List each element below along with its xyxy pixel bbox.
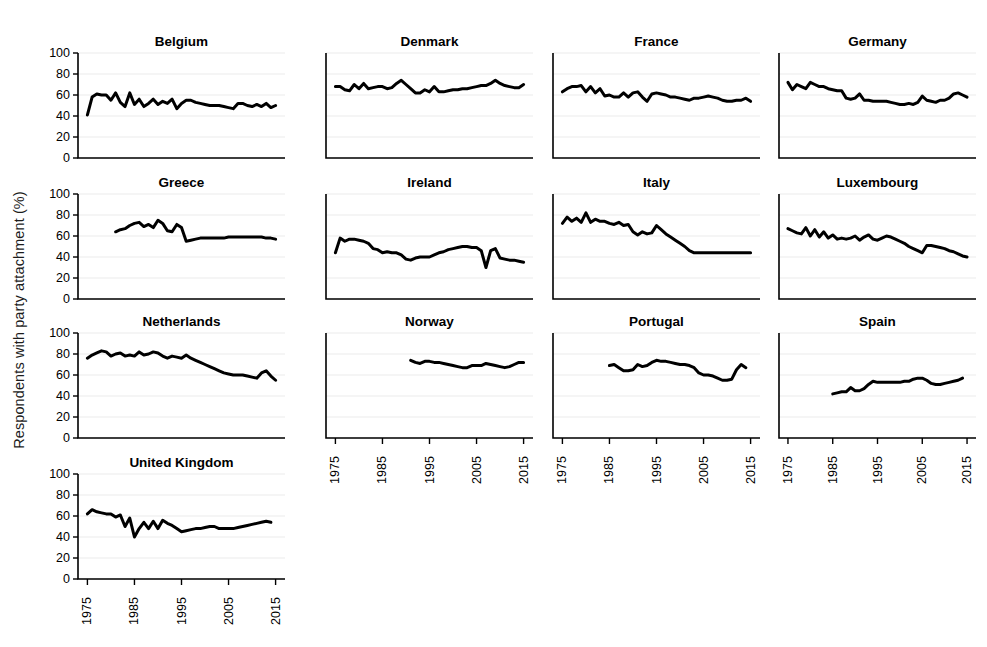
x-tick-label: 2005 — [915, 449, 929, 491]
panel-title: Ireland — [326, 175, 533, 191]
data-line-germany — [788, 82, 967, 104]
panel-title: United Kingdom — [78, 455, 285, 471]
x-tick-label: 1995 — [175, 590, 189, 632]
panel-france: France — [0, 0, 987, 647]
panel-plot — [0, 0, 987, 647]
y-tick-label: 80 — [34, 68, 70, 80]
data-line-belgium — [87, 93, 275, 115]
y-tick-label: 60 — [34, 89, 70, 101]
panel-ireland: Ireland — [0, 0, 987, 647]
y-tick-label: 0 — [34, 152, 70, 164]
x-tick-label: 1985 — [127, 590, 141, 632]
x-tick-label: 1995 — [423, 449, 437, 491]
panel-title: Luxembourg — [779, 175, 976, 191]
y-tick-label: 20 — [34, 411, 70, 423]
data-line-france — [562, 86, 750, 102]
axis-lines — [779, 53, 976, 158]
axis-lines — [553, 194, 760, 299]
y-tick-label: 100 — [34, 327, 70, 339]
axis-lines — [553, 333, 760, 438]
panel-luxembourg: Luxembourg — [0, 0, 987, 647]
y-tick-label: 100 — [34, 188, 70, 200]
y-tick-label: 80 — [34, 209, 70, 221]
y-axis-label: Respondents with party attachment (%) — [2, 140, 36, 500]
x-tick-label: 2015 — [960, 449, 974, 491]
y-tick-label: 60 — [34, 230, 70, 242]
data-line-portugal — [609, 360, 745, 380]
x-tick-label: 2015 — [269, 590, 283, 632]
x-tick-label: 2015 — [517, 449, 531, 491]
x-tick-label: 1985 — [375, 449, 389, 491]
panel-title: Italy — [553, 175, 760, 191]
y-tick-label: 20 — [34, 131, 70, 143]
x-tick-label: 1975 — [328, 449, 342, 491]
panel-title: Belgium — [78, 34, 285, 50]
x-tick-label: 1975 — [555, 449, 569, 491]
x-tick-label: 1995 — [650, 449, 664, 491]
axis-lines — [78, 194, 285, 299]
panel-plot — [0, 0, 987, 647]
panel-plot — [0, 0, 987, 647]
axis-lines — [78, 474, 285, 579]
panel-title: Greece — [78, 175, 285, 191]
panel-denmark: Denmark — [0, 0, 987, 647]
panel-netherlands: Netherlands020406080100 — [0, 0, 987, 647]
y-tick-label: 100 — [34, 468, 70, 480]
y-tick-label: 20 — [34, 552, 70, 564]
axis-lines — [326, 194, 533, 299]
panel-title: France — [553, 34, 760, 50]
x-tick-label: 2015 — [744, 449, 758, 491]
axis-lines — [326, 333, 533, 438]
panel-greece: Greece020406080100 — [0, 0, 987, 647]
axis-lines — [779, 194, 976, 299]
panel-title: Spain — [779, 314, 976, 330]
panel-belgium: Belgium020406080100 — [0, 0, 987, 647]
x-tick-label: 2005 — [470, 449, 484, 491]
y-tick-label: 40 — [34, 110, 70, 122]
x-tick-label: 1975 — [781, 449, 795, 491]
data-line-italy — [562, 213, 750, 253]
y-tick-label: 0 — [34, 293, 70, 305]
y-tick-label: 80 — [34, 489, 70, 501]
panel-plot — [0, 0, 987, 647]
panel-plot — [0, 0, 987, 647]
panel-plot — [0, 0, 987, 647]
y-tick-label: 0 — [34, 432, 70, 444]
y-tick-label: 60 — [34, 510, 70, 522]
x-tick-label: 2005 — [222, 590, 236, 632]
y-tick-label: 40 — [34, 390, 70, 402]
y-tick-label: 80 — [34, 348, 70, 360]
panel-germany: Germany — [0, 0, 987, 647]
data-line-ireland — [335, 238, 523, 267]
panel-united-kingdom: United Kingdom02040608010019751985199520… — [0, 0, 987, 647]
axis-lines — [78, 53, 285, 158]
panel-title: Norway — [326, 314, 533, 330]
axis-lines — [779, 333, 976, 438]
small-multiples-chart: Respondents with party attachment (%) Be… — [0, 0, 987, 647]
x-tick-label: 1975 — [80, 590, 94, 632]
y-tick-label: 0 — [34, 573, 70, 585]
panel-plot — [0, 0, 987, 647]
data-line-denmark — [335, 80, 523, 93]
y-tick-label: 40 — [34, 531, 70, 543]
x-tick-label: 1995 — [871, 449, 885, 491]
panel-plot — [0, 0, 987, 647]
x-tick-label: 1985 — [826, 449, 840, 491]
x-tick-label: 1985 — [602, 449, 616, 491]
axis-lines — [326, 53, 533, 158]
x-tick-label: 2005 — [697, 449, 711, 491]
y-tick-label: 100 — [34, 47, 70, 59]
axis-lines — [78, 333, 285, 438]
data-line-greece — [116, 220, 276, 241]
data-line-spain — [833, 378, 963, 394]
panel-plot — [0, 0, 987, 647]
panel-plot — [0, 0, 987, 647]
panel-portugal: Portugal19751985199520052015 — [0, 0, 987, 647]
panel-italy: Italy — [0, 0, 987, 647]
panel-title: Portugal — [553, 314, 760, 330]
axis-lines — [553, 53, 760, 158]
data-line-united-kingdom — [87, 510, 270, 537]
data-line-norway — [411, 360, 524, 367]
panel-plot — [0, 0, 987, 647]
panel-norway: Norway19751985199520052015 — [0, 0, 987, 647]
